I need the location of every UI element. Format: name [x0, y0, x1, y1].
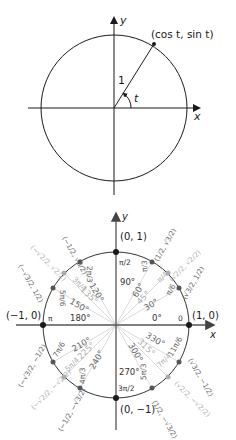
coord-240: (−1/2, −√3/2)	[57, 387, 88, 433]
y-axis-label-bottom: y	[121, 211, 129, 222]
rad-5pi3: 5π/3	[139, 363, 148, 380]
deg-0: 0°	[152, 313, 162, 323]
rad-11pi6: 11π/6	[166, 335, 185, 358]
coord-300: (1/2, −√3/2)	[150, 399, 178, 440]
rad-pi2: π/2	[119, 258, 131, 267]
deg-180: 180°	[70, 313, 90, 323]
coord-60: (1/2, √3/2)	[153, 227, 179, 263]
bottom-figure: y x (1, 0) (0, 1) (−1, 0) (0, −1) 0° 90°…	[6, 211, 219, 440]
rad-0: 0	[178, 314, 183, 323]
x-axis-label-bottom: x	[209, 329, 216, 340]
angle-label: t	[134, 92, 139, 105]
deg-270: 270°	[119, 367, 139, 377]
rad-4pi3: 4π/3	[78, 367, 87, 384]
point-label-0-1: (0, 1)	[120, 231, 147, 242]
rad-3pi2: 3π/2	[118, 384, 135, 393]
rad-5pi6: 5π/6	[58, 290, 67, 307]
x-axis-label: x	[193, 110, 201, 123]
coord-150: (−√3/2, 1/2)	[16, 263, 44, 304]
rad-pi3: π/3	[140, 260, 149, 272]
top-figure: y x 1 t (cos t, sin t)	[28, 14, 214, 195]
deg-90: 90°	[120, 277, 135, 287]
rad-7pi6: 7π/6	[51, 340, 67, 359]
coord-225: (−√2/2, −√2/2)	[30, 368, 73, 411]
coord-120: (−1/2, √3/2)	[60, 235, 88, 276]
coord-135: (−√2/2, √2/2)	[29, 244, 68, 283]
unit-circle-diagram: y x 1 t (cos t, sin t)	[0, 0, 236, 440]
point-label-0-neg1: (0, −1)	[120, 404, 155, 415]
rad-pi6: π/6	[164, 282, 178, 297]
point-label-neg1-0: (−1, 0)	[6, 310, 41, 321]
y-axis-label: y	[119, 14, 127, 27]
rad-pi: π	[48, 314, 53, 323]
point-on-circle	[152, 42, 156, 46]
radius-label: 1	[118, 74, 125, 87]
point-label: (cos t, sin t)	[151, 28, 214, 40]
coord-210: (−√3/2, −1/2)	[17, 343, 48, 389]
angle-arc	[124, 94, 131, 108]
point-label-1-0: (1, 0)	[192, 310, 219, 321]
